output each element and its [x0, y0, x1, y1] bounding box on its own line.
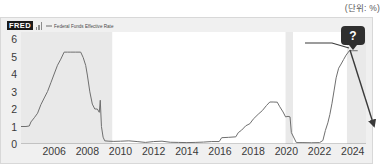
y-tick-label: 5 — [11, 51, 17, 62]
y-tick-label: 6 — [11, 34, 17, 45]
x-tick-label: 2018 — [242, 146, 265, 157]
screenshot-root: (단위: %) FRED Federal Funds Effective Rat… — [0, 0, 386, 164]
plot-area — [21, 32, 366, 144]
recession-band — [286, 32, 293, 144]
question-callout-bubble[interactable]: ? — [341, 26, 365, 45]
y-tick-label: 0 — [11, 139, 17, 150]
y-tick-label: 3 — [11, 86, 17, 97]
series-canvas — [21, 32, 366, 144]
y-axis-ticks: 0123456 — [1, 32, 21, 144]
x-tick-label: 2022 — [308, 146, 331, 157]
x-tick-label: 2006 — [42, 146, 65, 157]
x-axis-ticks: 2006200820102012201420162018202020222024 — [21, 144, 366, 160]
y-tick-label: 1 — [11, 121, 17, 132]
y-tick-label: 2 — [11, 104, 17, 115]
x-tick-label: 2024 — [341, 146, 364, 157]
fred-chart-card: FRED Federal Funds Effective Rate 012345… — [0, 17, 373, 164]
x-tick-label: 2014 — [175, 146, 198, 157]
bar-chart-icon — [36, 22, 43, 30]
x-tick-label: 2020 — [275, 146, 298, 157]
y-tick-label: 4 — [11, 69, 17, 80]
recession-bands — [21, 32, 366, 144]
unit-caption: (단위: %) — [345, 1, 380, 13]
recession-band — [21, 32, 86, 144]
recession-band — [86, 32, 112, 144]
legend-swatch — [46, 26, 52, 27]
x-tick-label: 2010 — [109, 146, 132, 157]
fred-header: FRED Federal Funds Effective Rate — [7, 21, 113, 30]
chart-legend: Federal Funds Effective Rate — [46, 24, 113, 29]
x-tick-label: 2012 — [142, 146, 165, 157]
x-tick-label: 2008 — [76, 146, 99, 157]
x-tick-label: 2016 — [208, 146, 231, 157]
legend-label: Federal Funds Effective Rate — [54, 24, 113, 29]
fred-wordmark: FRED — [7, 21, 33, 30]
question-mark-icon: ? — [349, 30, 356, 42]
